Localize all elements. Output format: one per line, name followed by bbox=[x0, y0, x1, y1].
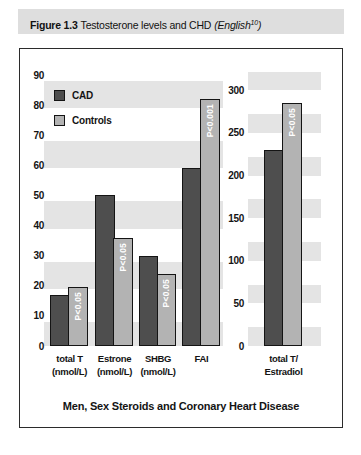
p-value-label: P<0.05 bbox=[161, 279, 171, 307]
page: Figure 1.3Testosterone levels and CHD(En… bbox=[0, 0, 361, 455]
p-value-label: P<0.001 bbox=[205, 104, 215, 137]
figure-ref: (English10) bbox=[214, 19, 261, 31]
y-tick-label: 50 bbox=[18, 190, 44, 201]
y-tick-label: 90 bbox=[18, 70, 44, 81]
legend-swatch-cad bbox=[54, 90, 65, 101]
chart-caption: Men, Sex Steroids and Coronary Heart Dis… bbox=[20, 400, 342, 412]
x-category-label-line: (nmol/L) bbox=[122, 365, 194, 378]
bar-cad bbox=[264, 150, 284, 346]
legend-swatch-controls bbox=[54, 115, 65, 126]
y-tick-label: 70 bbox=[18, 130, 44, 141]
p-value-label: P<0.05 bbox=[118, 243, 128, 271]
bar-controls bbox=[282, 103, 302, 346]
x-category-label-line: FAI bbox=[166, 352, 238, 365]
x-category-label: FAI bbox=[166, 352, 238, 365]
chart-box: CAD Controls Men, Sex Steroids and Coron… bbox=[19, 48, 343, 428]
legend: CAD Controls bbox=[54, 88, 112, 138]
figure-label: Figure 1.3 bbox=[30, 19, 78, 31]
y-tick-label: 50 bbox=[218, 298, 244, 309]
y-tick-label: 0 bbox=[218, 341, 244, 352]
y-tick-label: 150 bbox=[218, 213, 244, 224]
y-tick-label: 60 bbox=[18, 160, 44, 171]
figure-title: Testosterone levels and CHD bbox=[81, 19, 212, 31]
y-tick-label: 300 bbox=[218, 85, 244, 96]
y-tick-label: 0 bbox=[18, 341, 44, 352]
plot-background-stripe bbox=[248, 72, 321, 91]
p-value-label: P<0.05 bbox=[287, 108, 297, 136]
legend-label-controls: Controls bbox=[72, 115, 112, 126]
y-tick-label: 30 bbox=[18, 250, 44, 261]
legend-item-cad: CAD bbox=[54, 88, 112, 103]
x-category-label-line: total T/ bbox=[248, 352, 320, 365]
bar-cad bbox=[182, 168, 202, 346]
plot-background-stripe bbox=[44, 141, 223, 168]
y-tick-label: 100 bbox=[218, 255, 244, 266]
x-category-label-line: Estradiol bbox=[248, 365, 320, 378]
bar-cad bbox=[139, 256, 159, 346]
bar-cad bbox=[50, 295, 70, 346]
y-tick-label: 40 bbox=[18, 220, 44, 231]
y-tick-label: 200 bbox=[218, 170, 244, 181]
legend-item-controls: Controls bbox=[54, 113, 112, 128]
bar-cad bbox=[95, 195, 115, 346]
y-tick-label: 80 bbox=[18, 100, 44, 111]
x-category-label: total T/Estradiol bbox=[248, 352, 320, 378]
figure-ref-superscript: 10 bbox=[251, 18, 258, 25]
y-tick-label: 250 bbox=[218, 127, 244, 138]
y-tick-label: 10 bbox=[18, 310, 44, 321]
legend-label-cad: CAD bbox=[72, 90, 93, 101]
y-tick-label: 20 bbox=[18, 280, 44, 291]
figure-header: Figure 1.3Testosterone levels and CHD(En… bbox=[18, 9, 344, 34]
p-value-label: P<0.05 bbox=[73, 292, 83, 320]
